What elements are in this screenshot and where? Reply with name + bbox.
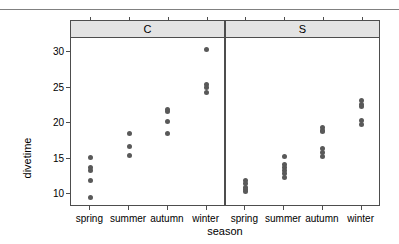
data-point: [320, 154, 325, 159]
y-axis-title: divetime: [21, 103, 33, 213]
top-tick-mark: [207, 17, 208, 21]
data-point: [88, 178, 93, 183]
data-point: [165, 119, 170, 124]
data-point: [127, 131, 132, 136]
x-tick-mark: [361, 206, 362, 210]
data-point: [282, 175, 287, 180]
x-tick-mark: [322, 206, 323, 210]
data-point: [88, 168, 93, 173]
panel-strip-label-S: S: [299, 24, 306, 35]
x-tick-mark: [244, 206, 245, 210]
plot-area: 1015202530 C S springsummerautumnwinter …: [70, 20, 380, 206]
x-tick-label: autumn: [150, 213, 183, 224]
top-tick-mark: [362, 17, 363, 21]
x-tick-label: summer: [265, 213, 301, 224]
x-axis-title: season: [70, 225, 380, 237]
y-tick-label: 30: [53, 46, 64, 57]
x-tick-label: winter: [192, 213, 219, 224]
data-point: [165, 109, 170, 114]
x-tick-mark: [167, 206, 168, 210]
top-tick-mark: [90, 17, 91, 21]
panel-canvas-S: [226, 38, 379, 205]
panel-C: C: [70, 20, 225, 206]
panel-strip-S: S: [226, 21, 379, 38]
data-point: [127, 153, 132, 158]
x-tick-mark: [283, 206, 284, 210]
y-tick-label: 10: [53, 188, 64, 199]
panel-canvas-C: [71, 38, 224, 205]
panel-strip-label-C: C: [144, 24, 152, 35]
y-tick-label: 25: [53, 81, 64, 92]
x-tick-label: summer: [110, 213, 146, 224]
y-tick-label: 20: [53, 117, 64, 128]
y-tick-label: 15: [53, 152, 64, 163]
top-tick-mark: [168, 17, 169, 21]
top-tick-mark: [284, 17, 285, 21]
data-point: [243, 189, 248, 194]
panel-S: S: [225, 20, 380, 206]
top-divider-rule: [0, 9, 399, 10]
data-point: [127, 144, 132, 149]
x-tick-mark: [206, 206, 207, 210]
data-point: [282, 154, 287, 159]
y-axis-title-wrap: divetime: [14, 60, 34, 140]
data-point: [88, 195, 93, 200]
panel-strip-C: C: [71, 21, 224, 38]
top-tick-mark: [129, 17, 130, 21]
data-point: [204, 47, 209, 52]
data-point: [165, 131, 170, 136]
data-point: [320, 129, 325, 134]
top-tick-mark: [245, 17, 246, 21]
chart-root: divetime 1015202530 C S springsummerautu…: [0, 0, 399, 244]
x-tick-mark: [89, 206, 90, 210]
data-point: [359, 104, 364, 109]
x-tick-mark: [128, 206, 129, 210]
x-tick-label: spring: [231, 213, 258, 224]
data-point: [359, 122, 364, 127]
data-point: [204, 90, 209, 95]
x-tick-label: spring: [76, 213, 103, 224]
x-tick-label: winter: [347, 213, 374, 224]
top-tick-mark: [323, 17, 324, 21]
x-tick-label: autumn: [305, 213, 338, 224]
data-point: [88, 155, 93, 160]
